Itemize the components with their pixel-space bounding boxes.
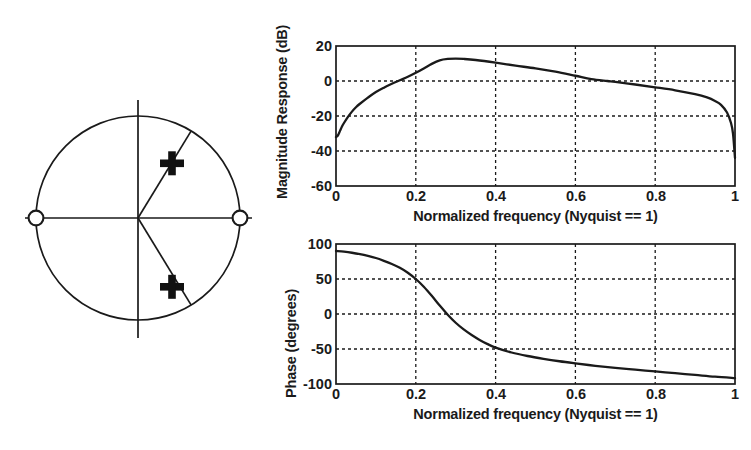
magnitude-xtick-0.2: 0.2 xyxy=(394,188,438,204)
magnitude-xtick-0.6: 0.6 xyxy=(554,188,598,204)
magnitude-xtick-1: 1 xyxy=(721,188,749,204)
magnitude-xtick-0: 0 xyxy=(322,188,350,204)
pole-radial-line-lower xyxy=(138,218,191,305)
phase-xtick-1: 1 xyxy=(721,386,749,402)
phase-xtick-0.4: 0.4 xyxy=(474,386,518,402)
phase-xtick-0: 0 xyxy=(322,386,350,402)
pole-marker-upper xyxy=(160,151,184,175)
magnitude-ytick-20: 20 xyxy=(296,38,332,54)
zero-marker-negative-one xyxy=(29,211,44,226)
phase-ytick-0: 0 xyxy=(286,306,332,322)
magnitude-y-axis-label: Magnitude Response (dB) xyxy=(274,23,290,199)
magnitude-xtick-0.4: 0.4 xyxy=(474,188,518,204)
zero-marker-positive-one xyxy=(233,211,248,226)
phase-ytick-50: 50 xyxy=(286,271,332,287)
pole-zero-canvas xyxy=(0,0,268,450)
phase-xtick-0.6: 0.6 xyxy=(554,386,598,402)
phase-response-plot: Phase (degrees) 100 50 0 -50 -100 0 0.2 … xyxy=(268,222,751,450)
magnitude-ytick--40: -40 xyxy=(290,143,332,159)
phase-xtick-0.8: 0.8 xyxy=(634,386,678,402)
pole-radial-line-upper xyxy=(138,131,191,218)
phase-x-axis-label: Normalized frequency (Nyquist == 1) xyxy=(336,406,735,422)
magnitude-response-plot: Magnitude Response (dB) 20 0 -20 -40 -60… xyxy=(268,0,751,228)
phase-xtick-0.2: 0.2 xyxy=(394,386,438,402)
pole-marker-lower xyxy=(160,275,184,299)
phase-ytick-100: 100 xyxy=(286,236,332,252)
magnitude-ytick-0: 0 xyxy=(296,73,332,89)
pole-zero-plot xyxy=(0,0,268,450)
magnitude-ytick--20: -20 xyxy=(290,108,332,124)
phase-ytick--50: -50 xyxy=(282,341,332,357)
figure-page: Magnitude Response (dB) 20 0 -20 -40 -60… xyxy=(0,0,751,450)
magnitude-xtick-0.8: 0.8 xyxy=(634,188,678,204)
